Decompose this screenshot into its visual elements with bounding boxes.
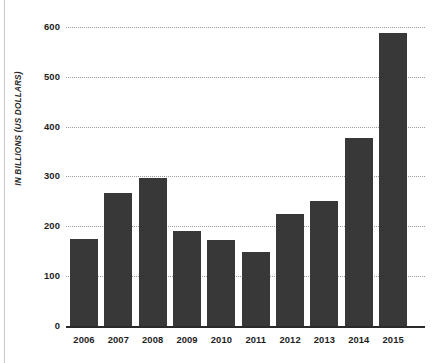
plot-area: 600 500 400 300 200 100 0 2006 2007 2008…: [0, 0, 441, 363]
bar-2015: [379, 33, 407, 326]
gridline-600: [66, 27, 425, 28]
bar-2013: [310, 201, 338, 326]
y-tick-label-300: 300: [20, 170, 60, 181]
bar-2008: [139, 178, 167, 326]
bar-2011: [242, 252, 270, 326]
bar-2006: [70, 239, 98, 326]
bar-2009: [173, 231, 201, 326]
y-tick-label-0: 0: [20, 320, 60, 331]
y-tick-label-400: 400: [20, 121, 60, 132]
bar-2014: [345, 138, 373, 326]
y-tick-label-500: 500: [20, 71, 60, 82]
bar-2010: [207, 240, 235, 326]
y-tick-label-100: 100: [20, 270, 60, 281]
y-tick-label-600: 600: [20, 21, 60, 32]
y-tick-label-200: 200: [20, 220, 60, 231]
gridline-400: [66, 127, 425, 128]
x-tick-label-2015: 2015: [373, 334, 413, 345]
gridline-500: [66, 77, 425, 78]
bar-2012: [276, 214, 304, 326]
bar-chart-figure: IN BILLIONS (US DOLLARS) 600 500 400 300…: [0, 0, 441, 363]
x-axis-line: [66, 326, 425, 328]
bar-2007: [104, 193, 132, 326]
